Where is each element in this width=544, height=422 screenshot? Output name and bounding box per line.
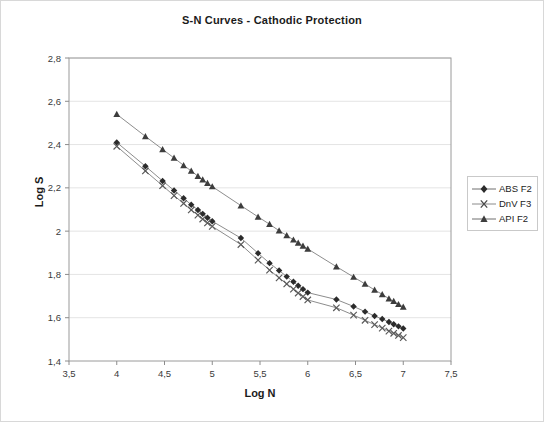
legend-label-abs-f2: ABS F2 bbox=[497, 183, 532, 194]
data-point-marker bbox=[379, 291, 386, 297]
legend-label-api-f2: API F2 bbox=[497, 213, 528, 224]
data-point-marker bbox=[362, 308, 368, 314]
data-point-marker bbox=[113, 111, 120, 117]
x-tick-label: 7,5 bbox=[444, 368, 457, 379]
data-point-marker bbox=[276, 275, 282, 281]
chart-figure: S-N Curves - Cathodic Protection 3,544,5… bbox=[0, 0, 544, 422]
data-point-marker bbox=[238, 241, 244, 247]
series-api-f2 bbox=[113, 111, 406, 310]
chart-legend: ABS F2 DnV F3 API F2 bbox=[467, 176, 538, 231]
data-point-marker bbox=[290, 286, 296, 292]
data-point-marker bbox=[379, 325, 385, 331]
data-point-marker bbox=[300, 293, 306, 299]
x-tick-label: 6,5 bbox=[349, 368, 362, 379]
x-tick-label: 5,5 bbox=[253, 368, 266, 379]
data-point-marker bbox=[362, 281, 369, 287]
x-axis-ticks: 3,544,555,566,577,5 bbox=[62, 361, 457, 379]
plot-area: 3,544,555,566,577,5 1,41,61,822,22,42,62… bbox=[1, 1, 544, 422]
legend-item-dnv-f3[interactable]: DnV F3 bbox=[471, 196, 532, 211]
data-point-marker bbox=[333, 263, 340, 269]
y-axis-label: Log S bbox=[33, 162, 45, 222]
data-point-marker bbox=[305, 297, 311, 303]
data-point-marker bbox=[188, 168, 195, 174]
plot-svg: 3,544,555,566,577,5 1,41,61,822,22,42,62… bbox=[1, 1, 544, 422]
legend-label-dnv-f3: DnV F3 bbox=[497, 198, 531, 209]
y-tick-label: 2,4 bbox=[48, 139, 61, 150]
legend-marker-cross-icon bbox=[471, 197, 497, 210]
y-tick-label: 1,8 bbox=[48, 269, 61, 280]
data-point-marker bbox=[255, 213, 262, 219]
data-point-marker bbox=[350, 303, 356, 309]
data-point-marker bbox=[159, 146, 166, 152]
data-point-marker bbox=[284, 281, 290, 287]
legend-marker-diamond-icon bbox=[471, 182, 497, 195]
data-point-marker bbox=[386, 295, 393, 301]
legend-marker-triangle-icon bbox=[471, 212, 497, 225]
y-tick-label: 2,6 bbox=[48, 96, 61, 107]
x-tick-label: 5 bbox=[210, 368, 215, 379]
data-point-marker bbox=[142, 133, 149, 139]
data-point-marker bbox=[371, 321, 377, 327]
x-axis-label: Log N bbox=[69, 387, 451, 399]
y-tick-label: 1,4 bbox=[48, 356, 61, 367]
data-point-marker bbox=[371, 287, 378, 293]
gridlines bbox=[69, 58, 451, 318]
x-tick-label: 4,5 bbox=[158, 368, 171, 379]
data-point-marker bbox=[276, 227, 283, 233]
data-point-marker bbox=[171, 155, 178, 161]
data-series-group bbox=[113, 111, 406, 341]
data-point-marker bbox=[379, 316, 385, 322]
x-tick-label: 7 bbox=[401, 368, 406, 379]
series-abs-f2 bbox=[114, 139, 407, 332]
y-tick-label: 2 bbox=[56, 226, 61, 237]
data-point-marker bbox=[290, 236, 297, 242]
y-tick-label: 2,2 bbox=[48, 182, 61, 193]
y-tick-label: 1,6 bbox=[48, 312, 61, 323]
x-tick-label: 4 bbox=[114, 368, 119, 379]
data-point-marker bbox=[238, 202, 245, 208]
legend-item-api-f2[interactable]: API F2 bbox=[471, 211, 532, 226]
y-tick-label: 2,8 bbox=[48, 53, 61, 64]
data-point-marker bbox=[371, 313, 377, 319]
data-point-marker bbox=[295, 290, 301, 296]
data-point-marker bbox=[283, 232, 290, 238]
y-axis-ticks: 1,41,61,822,22,42,62,8 bbox=[48, 53, 69, 367]
axis-frame bbox=[69, 58, 451, 361]
x-tick-label: 3,5 bbox=[62, 368, 75, 379]
legend-item-abs-f2[interactable]: ABS F2 bbox=[471, 181, 532, 196]
data-point-marker bbox=[266, 267, 272, 273]
data-point-marker bbox=[266, 221, 273, 227]
x-tick-label: 6 bbox=[305, 368, 310, 379]
data-point-marker bbox=[180, 162, 187, 168]
data-point-marker bbox=[255, 257, 261, 263]
data-point-marker bbox=[333, 296, 339, 302]
data-point-marker bbox=[333, 305, 339, 311]
